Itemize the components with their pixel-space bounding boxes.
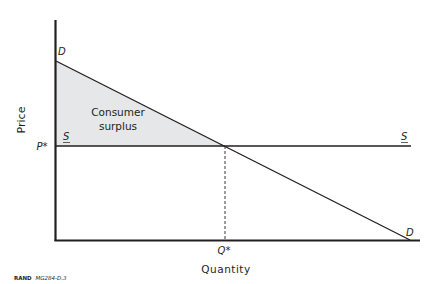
x-axis-label: Quantity xyxy=(201,263,250,275)
supply-right-label: S xyxy=(401,131,408,142)
demand-line xyxy=(56,61,410,240)
quantity-star-label: Q* xyxy=(218,245,231,256)
price-star-label: P* xyxy=(36,141,47,152)
credit-code: MG284-D.3 xyxy=(35,275,66,281)
y-axis-label: Price xyxy=(15,106,28,133)
demand-top-label: D xyxy=(58,46,66,57)
credit-org: RAND xyxy=(14,275,32,281)
consumer-surplus-label-line1: Consumer xyxy=(91,106,145,118)
figure-credit: RAND MG284-D.3 xyxy=(14,275,67,281)
consumer-surplus-label-line2: surplus xyxy=(99,120,137,132)
supply-demand-diagram: Price P* D S S D Consumer surplus Q* Qua… xyxy=(0,0,434,284)
supply-left-label: S xyxy=(63,131,70,142)
demand-bottom-label: D xyxy=(406,227,414,238)
